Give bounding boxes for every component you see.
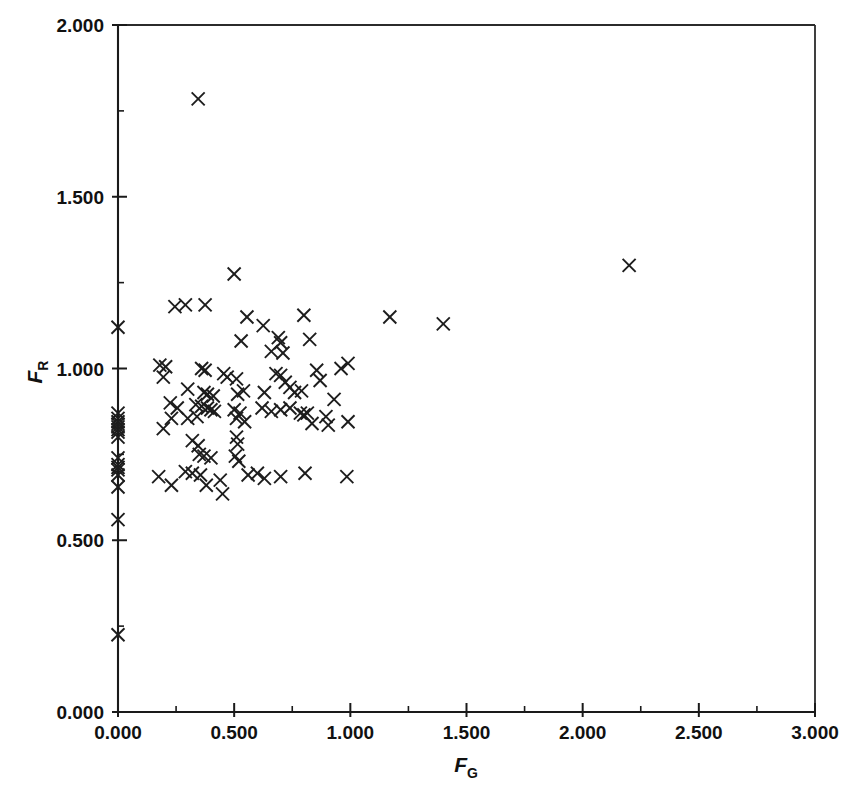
x-axis-title-subscript: G bbox=[467, 765, 478, 781]
scatter-point bbox=[157, 422, 170, 435]
x-tick-label: 1.000 bbox=[327, 722, 375, 743]
scatter-point bbox=[335, 362, 348, 375]
scatter-point bbox=[328, 393, 341, 406]
scatter-point bbox=[157, 371, 170, 384]
scatter-plot-figure: 0.0000.5001.0001.5002.0002.5003.000 0.00… bbox=[0, 0, 858, 790]
scatter-point bbox=[342, 357, 355, 370]
y-tick-label: 0.500 bbox=[56, 530, 104, 551]
scatter-point bbox=[314, 374, 327, 387]
scatter-point bbox=[257, 319, 270, 332]
x-tick-label: 2.000 bbox=[559, 722, 607, 743]
scatter-point bbox=[152, 470, 165, 483]
svg-text:FR: FR bbox=[23, 361, 51, 384]
x-axis-tick-labels: 0.0000.5001.0001.5002.0002.5003.000 bbox=[94, 722, 839, 743]
y-axis-tick-labels: 0.0000.5001.0001.5002.000 bbox=[56, 15, 104, 723]
scatter-point bbox=[303, 333, 316, 346]
y-tick-label: 1.500 bbox=[56, 187, 104, 208]
scatter-point bbox=[274, 403, 287, 416]
y-axis-title: FR bbox=[23, 361, 51, 384]
scatter-point bbox=[342, 415, 355, 428]
scatter-point bbox=[383, 310, 396, 323]
scatter-point bbox=[232, 455, 245, 468]
y-tick-label: 1.000 bbox=[56, 359, 104, 380]
scatter-point bbox=[237, 384, 250, 397]
x-tick-label: 2.500 bbox=[675, 722, 723, 743]
scatter-point bbox=[297, 309, 310, 322]
scatter-point bbox=[235, 335, 248, 348]
scatter-point bbox=[221, 371, 234, 384]
x-axis-title: FG bbox=[454, 753, 478, 781]
data-markers bbox=[112, 92, 636, 641]
y-tick-label: 0.000 bbox=[56, 702, 104, 723]
scatter-point bbox=[274, 470, 287, 483]
scatter-point bbox=[258, 472, 271, 485]
scatter-point bbox=[240, 310, 253, 323]
scatter-point bbox=[181, 412, 194, 425]
scatter-point bbox=[192, 92, 205, 105]
scatter-point bbox=[181, 383, 194, 396]
scatter-point bbox=[230, 372, 243, 385]
scatter-point bbox=[276, 347, 289, 360]
scatter-point bbox=[258, 386, 271, 399]
x-tick-label: 3.000 bbox=[791, 722, 839, 743]
scatter-point bbox=[623, 259, 636, 272]
x-tick-label: 0.000 bbox=[94, 722, 142, 743]
y-tick-label: 2.000 bbox=[56, 15, 104, 36]
x-tick-label: 1.500 bbox=[443, 722, 491, 743]
scatter-point bbox=[165, 479, 178, 492]
scatter-point bbox=[265, 345, 278, 358]
scatter-point bbox=[274, 369, 287, 382]
scatter-point bbox=[179, 298, 192, 311]
scatter-point bbox=[272, 331, 285, 344]
scatter-point bbox=[193, 448, 206, 461]
y-axis-title-subscript: R bbox=[35, 361, 51, 371]
scatter-point bbox=[251, 467, 264, 480]
x-tick-label: 0.500 bbox=[210, 722, 258, 743]
svg-text:FG: FG bbox=[454, 753, 478, 781]
scatter-point bbox=[164, 396, 177, 409]
axis-ticks bbox=[112, 25, 815, 717]
plot-frame bbox=[118, 25, 815, 712]
plot-canvas: 0.0000.5001.0001.5002.0002.5003.000 0.00… bbox=[0, 0, 858, 790]
scatter-point bbox=[214, 474, 227, 487]
scatter-point bbox=[340, 470, 353, 483]
scatter-point bbox=[216, 487, 229, 500]
scatter-point bbox=[322, 419, 335, 432]
scatter-point bbox=[310, 364, 323, 377]
scatter-point bbox=[242, 468, 255, 481]
scatter-point bbox=[299, 467, 312, 480]
scatter-point bbox=[199, 298, 212, 311]
scatter-point bbox=[228, 268, 241, 281]
scatter-point bbox=[319, 410, 332, 423]
scatter-point bbox=[437, 317, 450, 330]
